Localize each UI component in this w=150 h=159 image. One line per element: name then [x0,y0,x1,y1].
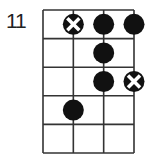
finger-dot-icon [93,14,114,35]
chord-diagram [0,0,150,159]
finger-dot-icon [63,100,84,121]
finger-dot-icon [93,42,114,63]
finger-dot-icon [93,71,114,92]
x-marker-icon [63,14,84,35]
finger-dot-icon [124,14,145,35]
fretboard-grid [43,10,134,153]
x-marker-icon [124,71,145,92]
